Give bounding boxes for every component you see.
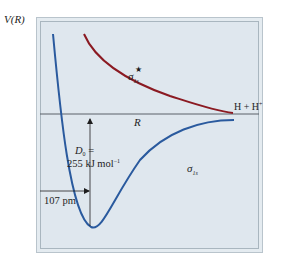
antibonding-curve [84, 34, 233, 113]
d0-value-text: 255 kJ mol [67, 158, 114, 169]
d0-equals: = [86, 145, 95, 156]
limit-superscript: + [259, 101, 262, 107]
limit-main-text: H + H [234, 101, 259, 112]
plot-svg [0, 0, 297, 267]
diagram-stage: V(R) R H + H+ σ1s★ σ1s D0 = 255 kJ mol−1… [0, 0, 297, 267]
y-axis-label: V(R) [4, 14, 25, 25]
bonding-curve [53, 34, 234, 228]
d0-symbol: D [75, 145, 83, 156]
d0-unit-superscript: −1 [114, 158, 120, 164]
bonding-label: σ1s [187, 163, 198, 174]
dissociation-limit-label: H + H+ [234, 101, 262, 112]
antibonding-label: σ1s★ [128, 71, 139, 82]
d0-value: 255 kJ mol−1 [67, 158, 120, 170]
antibonding-subscript: 1s [133, 78, 138, 84]
equilibrium-distance-label: 107 pm [44, 196, 76, 207]
star-icon: ★ [135, 66, 142, 74]
x-axis-label: R [134, 117, 141, 128]
d0-label: D0 = [75, 146, 94, 157]
bonding-subscript: 1s [192, 170, 197, 176]
